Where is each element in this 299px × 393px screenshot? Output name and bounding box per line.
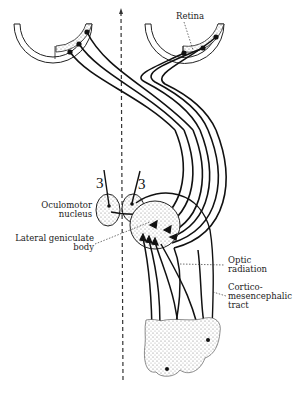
- right-eye-retina: [145, 24, 224, 63]
- leader-lines: [95, 22, 226, 296]
- label-cortico-line3: tract: [228, 301, 292, 310]
- label-cortico-mesencephalic-tract: Cortico- mesencephalic tract: [228, 283, 292, 310]
- label-retina: Retina: [176, 12, 204, 21]
- diagram-drawing: [0, 0, 299, 393]
- oculomotor-nuclei: [96, 170, 213, 330]
- midline-dashed: [119, 8, 123, 380]
- left-eye-fibers: [68, 30, 193, 130]
- lateral-geniculate-body: [130, 201, 180, 249]
- label-optic-line2: radiation: [228, 265, 267, 274]
- label-cranial-nerve-3-left: 3: [96, 176, 104, 191]
- label-lgb-line2: body: [14, 243, 94, 252]
- visual-pathway-diagram: Retina 3 3 Oculomotor nucleus Lateral ge…: [0, 0, 299, 393]
- visual-cortex: [144, 318, 220, 377]
- label-oculomotor-nucleus: Oculomotor nucleus: [40, 201, 92, 219]
- label-cranial-nerve-3-right: 3: [138, 177, 146, 192]
- label-optic-radiation: Optic radiation: [228, 256, 267, 274]
- label-oculomotor-line2: nucleus: [40, 210, 92, 219]
- label-lateral-geniculate-body: Lateral geniculate body: [14, 234, 94, 252]
